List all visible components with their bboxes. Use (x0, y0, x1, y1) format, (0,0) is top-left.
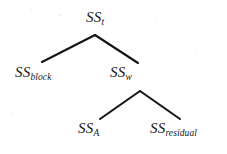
edge-within-to-a (100, 91, 140, 119)
node-total-subscript: t (101, 17, 104, 27)
tree-node-residual: SSresidual (150, 121, 197, 136)
edge-total-to-within (95, 35, 138, 63)
node-a-subscript: A (93, 128, 99, 138)
node-within-subscript: w (125, 72, 131, 82)
ss-decomposition-tree-diagram: SSt SSblock SSw SSA SSresidual (0, 0, 227, 154)
node-residual-base: SS (150, 120, 165, 136)
tree-node-within: SSw (110, 65, 132, 80)
node-a-base: SS (78, 120, 93, 136)
node-residual-subscript: residual (165, 128, 197, 138)
node-block-base: SS (15, 64, 30, 80)
tree-node-total: SSt (86, 10, 104, 25)
node-block-subscript: block (30, 72, 51, 82)
node-total-base: SS (86, 9, 101, 25)
tree-node-block: SSblock (15, 65, 51, 80)
edge-total-to-block (42, 35, 95, 62)
node-within-base: SS (110, 64, 125, 80)
tree-node-a: SSA (78, 121, 99, 136)
edge-within-to-residual (140, 91, 180, 119)
